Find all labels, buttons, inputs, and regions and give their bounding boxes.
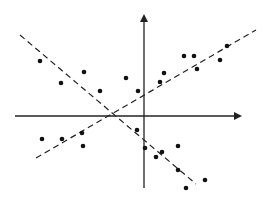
data-point xyxy=(225,44,230,49)
data-point xyxy=(176,168,181,173)
data-point xyxy=(82,70,87,75)
data-point xyxy=(135,128,140,133)
data-point xyxy=(59,81,64,86)
data-point xyxy=(203,178,208,183)
negative-trend-line xyxy=(20,35,196,184)
data-point xyxy=(136,89,141,94)
data-point xyxy=(124,76,129,81)
data-point xyxy=(154,155,159,160)
data-point xyxy=(38,59,43,64)
data-point xyxy=(98,89,103,94)
data-point xyxy=(40,137,45,142)
scatter-diagram xyxy=(0,0,265,199)
data-point xyxy=(162,71,167,76)
data-point xyxy=(184,186,189,191)
data-point xyxy=(60,137,65,142)
data-points xyxy=(38,44,230,191)
data-point xyxy=(143,146,148,151)
data-point xyxy=(158,80,163,85)
data-point xyxy=(182,54,187,59)
data-point xyxy=(160,150,165,155)
data-point xyxy=(80,131,85,136)
trend-lines xyxy=(20,30,256,184)
data-point xyxy=(192,54,197,59)
data-point xyxy=(81,144,86,149)
plot-canvas xyxy=(0,0,265,199)
data-point xyxy=(176,144,181,149)
data-point xyxy=(195,67,200,72)
positive-trend-line xyxy=(36,30,256,158)
axes xyxy=(15,16,240,188)
data-point xyxy=(218,58,223,63)
